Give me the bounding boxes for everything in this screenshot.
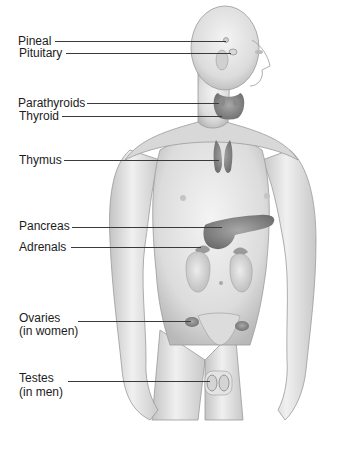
leader-pancreas <box>72 227 222 228</box>
label-testes: Testes <box>19 371 54 385</box>
ovary-right <box>235 321 249 331</box>
label-thyroid: Thyroid <box>19 109 59 123</box>
label-ovaries-note: (in women) <box>19 324 78 338</box>
ovary-left <box>185 317 199 327</box>
leader-adrenals <box>71 247 201 248</box>
eye <box>255 50 263 54</box>
navel <box>219 281 223 285</box>
leader-thymus <box>64 160 219 161</box>
left-arm <box>110 150 160 420</box>
kidney-left <box>186 252 210 292</box>
label-ovaries: Ovaries <box>19 311 60 325</box>
leader-ovaries <box>78 321 191 322</box>
leader-pineal <box>55 41 226 42</box>
leader-parathyroids <box>87 103 219 104</box>
parathyroid-left <box>219 98 225 106</box>
testis-left <box>207 375 217 391</box>
label-adrenals: Adrenals <box>19 240 66 254</box>
testis-right <box>219 375 229 391</box>
leader-pituitary <box>66 53 231 54</box>
parathyroid-right <box>233 98 239 106</box>
label-parathyroids: Parathyroids <box>18 96 85 110</box>
label-thymus: Thymus <box>19 153 62 167</box>
pituitary-gland <box>229 49 237 55</box>
label-pituitary: Pituitary <box>19 46 62 60</box>
right-arm <box>262 150 316 420</box>
label-testes-note: (in men) <box>19 385 63 399</box>
leader-thyroid <box>62 116 222 117</box>
leader-testes <box>68 381 210 382</box>
nipple-right <box>264 193 270 199</box>
nipple-left <box>180 195 186 201</box>
label-pancreas: Pancreas <box>19 219 70 233</box>
head <box>191 6 259 90</box>
